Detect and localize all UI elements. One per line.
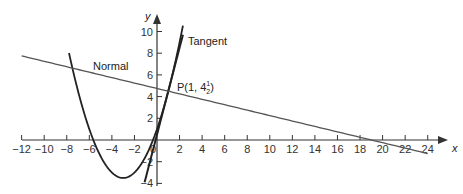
y-ticks: −4−2246810 <box>140 26 162 190</box>
x-tick-label: 12 <box>286 143 298 155</box>
y-axis-arrow-icon <box>153 14 161 24</box>
x-tick-label: −6 <box>83 143 96 155</box>
point-p-suffix: ) <box>210 81 214 93</box>
point-p-prefix: P(1, 4 <box>177 81 206 93</box>
x-axis-title: x <box>451 142 458 154</box>
y-tick-label: −4 <box>140 177 153 189</box>
graph-canvas: −12−10−8−6−4−2246810121416182022240 −4−2… <box>0 0 463 194</box>
x-tick-label: −4 <box>106 143 119 155</box>
x-ticks: −12−10−8−6−4−2246810121416182022240 <box>12 135 434 155</box>
normal-label: Normal <box>93 60 128 72</box>
x-tick-label: 2 <box>176 143 182 155</box>
annotations: Tangent Normal P(1, 412) <box>93 35 227 95</box>
y-axis-title: y <box>144 10 152 22</box>
x-tick-label: 16 <box>331 143 343 155</box>
x-tick-label: 20 <box>376 143 388 155</box>
point-p-label: P(1, 412) <box>177 80 214 95</box>
y-tick-label: 6 <box>147 69 153 81</box>
x-tick-label: 6 <box>222 143 228 155</box>
x-tick-label: −12 <box>12 143 31 155</box>
x-tick-label: −8 <box>60 143 73 155</box>
x-tick-label: 10 <box>264 143 276 155</box>
x-tick-label: −2 <box>128 143 141 155</box>
x-axis-arrow-icon <box>438 136 448 144</box>
axes: −12−10−8−6−4−2246810121416182022240 −4−2… <box>12 10 458 189</box>
x-tick-label: −10 <box>35 143 54 155</box>
tangent-label: Tangent <box>188 35 227 47</box>
plot-series <box>22 26 428 183</box>
y-tick-label: 8 <box>147 47 153 59</box>
x-tick-label: 14 <box>309 143 321 155</box>
y-tick-label: 10 <box>141 26 153 38</box>
x-tick-label: 18 <box>354 143 366 155</box>
y-tick-label: 4 <box>147 91 153 103</box>
y-tick-label: 2 <box>147 112 153 124</box>
x-tick-label: 8 <box>244 143 250 155</box>
x-tick-label: 4 <box>199 143 205 155</box>
